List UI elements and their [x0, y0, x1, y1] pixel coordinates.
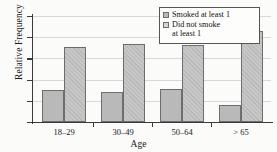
legend: Smoked at least 1 Did not smoke at least… — [159, 7, 260, 44]
bar-chart: Relative Frequency 0 0.2 0.4 0.6 0.8 1 — [0, 0, 277, 152]
legend-label-not-smoked-line2: at least 1 — [172, 29, 220, 38]
x-tick-label-over-65: > 65 — [211, 128, 271, 137]
bar-not-smoked-30-49 — [123, 44, 145, 122]
bar-smoked-over-65 — [219, 105, 241, 123]
x-tick-label-30-49: 30–49 — [93, 128, 153, 137]
x-tick-mark-3 — [211, 122, 212, 127]
y-axis-line — [32, 14, 33, 124]
legend-swatch-not-smoked-icon — [163, 22, 169, 28]
bar-smoked-50-64 — [160, 89, 182, 122]
legend-swatch-smoked-icon — [163, 12, 169, 18]
bar-smoked-18-29 — [42, 90, 64, 122]
y-axis-title: Relative Frequency — [14, 0, 24, 94]
bar-not-smoked-18-29 — [64, 47, 86, 122]
legend-label-not-smoked-line1: Did not smoke — [172, 20, 220, 29]
bar-smoked-30-49 — [101, 92, 123, 122]
bar-not-smoked-50-64 — [182, 45, 204, 122]
legend-item-not-smoked: Did not smoke at least 1 — [163, 20, 256, 38]
x-tick-label-18-29: 18–29 — [34, 128, 94, 137]
x-tick-mark-1 — [93, 122, 94, 127]
x-tick-mark-2 — [152, 122, 153, 127]
bar-not-smoked-over-65 — [241, 31, 263, 122]
legend-label-smoked: Smoked at least 1 — [172, 10, 230, 19]
x-axis-line — [27, 122, 273, 123]
legend-item-smoked: Smoked at least 1 — [163, 10, 256, 19]
x-axis-title: Age — [0, 139, 277, 149]
x-tick-label-50-64: 50–64 — [152, 128, 212, 137]
legend-label-not-smoked: Did not smoke at least 1 — [172, 20, 220, 38]
